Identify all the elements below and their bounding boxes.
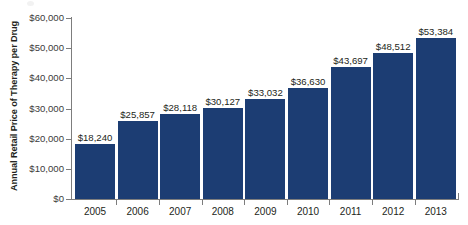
- y-axis-tick-mark: [66, 48, 72, 49]
- y-axis-tick-mark: [66, 109, 72, 110]
- bar: [245, 99, 285, 199]
- x-axis-category-label: 2012: [373, 206, 413, 218]
- plot-area: $18,2402005$25,8572006$28,1182007$30,127…: [0, 0, 468, 225]
- bar-value-label: $18,240: [69, 132, 121, 143]
- bar: [373, 53, 413, 199]
- bar-chart: Annual Retail Price of Therapy per Drug …: [0, 0, 468, 225]
- bar-value-label: $48,512: [367, 41, 419, 52]
- bar: [160, 114, 200, 199]
- bar-value-label: $53,384: [410, 26, 462, 37]
- y-axis-tick-mark: [66, 139, 72, 140]
- y-axis-tick-mark: [66, 78, 72, 79]
- bar: [288, 88, 328, 199]
- x-axis-category-label: 2008: [203, 206, 243, 218]
- x-axis-tick-mark: [415, 200, 416, 205]
- x-axis-tick-mark: [244, 200, 245, 205]
- bar: [331, 67, 371, 199]
- x-axis-category-label: 2010: [288, 206, 328, 218]
- bar: [416, 38, 456, 199]
- bar: [118, 121, 158, 199]
- x-axis-category-label: 2011: [331, 206, 371, 218]
- x-axis-category-label: 2007: [160, 206, 200, 218]
- x-axis-tick-mark: [116, 200, 117, 205]
- bar-value-label: $36,630: [282, 76, 334, 87]
- x-axis-tick-mark: [329, 200, 330, 205]
- x-axis-category-label: 2006: [118, 206, 158, 218]
- x-axis-category-label: 2005: [75, 206, 115, 218]
- x-axis-category-label: 2013: [416, 206, 456, 218]
- bar-value-label: $43,697: [325, 55, 377, 66]
- x-axis-tick-mark: [202, 200, 203, 205]
- bar: [75, 144, 115, 199]
- x-axis-tick-mark: [159, 200, 160, 205]
- bar: [203, 108, 243, 199]
- x-axis-category-label: 2009: [245, 206, 285, 218]
- x-axis-tick-mark: [287, 200, 288, 205]
- y-axis-tick-mark: [66, 169, 72, 170]
- y-axis-tick-mark: [66, 18, 72, 19]
- x-axis-tick-mark: [372, 200, 373, 205]
- bar-value-label: $33,032: [239, 87, 291, 98]
- y-axis-tick-mark: [66, 199, 72, 200]
